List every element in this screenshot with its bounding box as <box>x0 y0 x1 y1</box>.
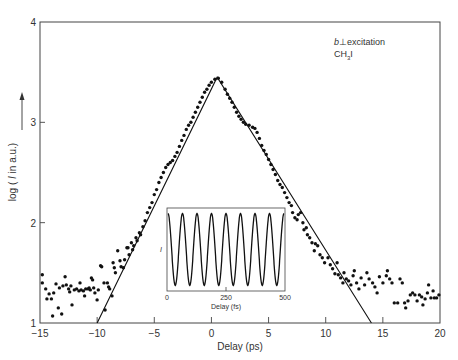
data-point <box>378 275 381 278</box>
data-point <box>102 281 105 284</box>
data-point <box>337 273 340 276</box>
data-point <box>281 186 284 189</box>
data-point <box>196 106 199 109</box>
data-point <box>239 118 242 121</box>
data-point <box>126 246 129 249</box>
data-point <box>235 111 238 114</box>
data-point <box>78 281 81 284</box>
data-point <box>134 236 137 239</box>
data-point <box>228 97 231 100</box>
data-point <box>233 106 236 109</box>
data-point <box>274 173 277 176</box>
data-point <box>431 289 434 292</box>
data-point <box>68 290 71 293</box>
annotation-line-2: CH3I <box>334 48 385 64</box>
data-point <box>185 128 188 131</box>
data-point <box>388 277 391 280</box>
perpendicular-symbol: ⊥ <box>339 37 347 47</box>
data-point <box>164 166 167 169</box>
data-point <box>255 131 258 134</box>
data-point <box>118 259 121 262</box>
data-point <box>60 312 63 315</box>
data-point <box>155 188 158 191</box>
data-point <box>182 134 185 137</box>
data-point <box>106 281 109 284</box>
data-point <box>413 293 416 296</box>
data-point <box>365 271 368 274</box>
data-point <box>114 271 117 274</box>
data-point <box>396 301 399 304</box>
x-tick-label: −5 <box>149 328 161 339</box>
data-point <box>108 287 111 290</box>
data-point <box>132 244 135 247</box>
data-point <box>148 206 151 209</box>
data-point <box>83 294 86 297</box>
data-point <box>323 261 326 264</box>
data-point <box>363 283 366 286</box>
data-point <box>116 249 119 252</box>
data-point <box>258 137 261 140</box>
data-point <box>63 275 66 278</box>
data-point <box>203 91 206 94</box>
data-point <box>426 291 429 294</box>
data-point <box>290 204 293 207</box>
data-point <box>423 297 426 300</box>
data-point <box>437 293 440 296</box>
annotation-line-1: b⊥excitation <box>334 36 385 48</box>
data-point <box>347 279 350 282</box>
x-tick-label: 5 <box>266 328 272 339</box>
data-point <box>278 183 281 186</box>
data-point <box>50 297 53 300</box>
data-point <box>367 277 370 280</box>
data-point <box>326 256 329 259</box>
data-point <box>276 179 279 182</box>
inset-xtick-0: 0 <box>165 294 169 301</box>
chart-annotation: b⊥excitation CH3I <box>334 36 385 64</box>
data-point <box>111 261 114 264</box>
data-point <box>70 303 73 306</box>
data-point <box>435 296 438 299</box>
data-point <box>355 281 358 284</box>
x-tick-label: 0 <box>209 328 215 339</box>
data-point <box>65 283 68 286</box>
y-tick-label: 3 <box>30 117 36 128</box>
data-point <box>187 124 190 127</box>
y-tick-label: 2 <box>30 218 36 229</box>
data-point <box>308 236 311 239</box>
data-point <box>226 93 229 96</box>
inset-xtick-500: 500 <box>279 294 291 301</box>
data-point <box>421 303 424 306</box>
data-point <box>45 297 48 300</box>
data-point <box>103 308 106 311</box>
data-point <box>159 176 162 179</box>
data-point <box>403 301 406 304</box>
data-point <box>341 281 344 284</box>
x-axis-ticks: −15−10−505101520 <box>32 317 446 339</box>
data-point <box>295 218 298 221</box>
data-point <box>162 171 165 174</box>
data-point <box>194 111 197 114</box>
data-point <box>127 253 130 256</box>
data-point <box>429 296 432 299</box>
data-point <box>54 282 57 285</box>
y-tick-label: 1 <box>30 318 36 329</box>
data-point <box>51 314 54 317</box>
data-point <box>97 288 100 291</box>
data-point <box>223 88 226 91</box>
data-point <box>113 266 116 269</box>
data-point <box>375 291 378 294</box>
data-point <box>143 219 146 222</box>
data-point <box>198 101 201 104</box>
data-point <box>178 145 181 148</box>
data-point <box>207 84 210 87</box>
data-point <box>404 306 407 309</box>
molecule-main: CH <box>334 49 347 59</box>
x-axis-title: Delay (ps) <box>217 341 263 352</box>
data-point <box>41 273 44 276</box>
data-point <box>381 281 384 284</box>
data-point <box>44 287 47 290</box>
data-point <box>415 299 418 302</box>
molecule-end: I <box>350 49 353 59</box>
data-point <box>393 301 396 304</box>
data-point <box>210 81 213 84</box>
